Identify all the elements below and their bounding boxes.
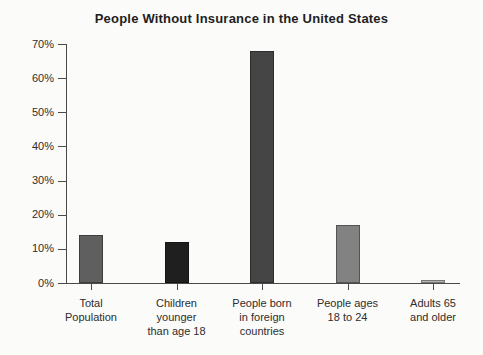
y-tick-mark [58,181,66,182]
x-category-label-line: Children [129,296,225,310]
y-tick-label: 70% [4,38,54,50]
y-axis-line [66,44,67,283]
y-tick-mark [58,146,66,147]
x-category-label: Adults 65and older [385,296,481,324]
x-category-label-line: in foreign [214,310,310,324]
y-tick-mark [58,283,66,284]
x-category-label-line: younger [129,310,225,324]
y-tick-label: 0% [4,277,54,289]
x-category-label: TotalPopulation [43,296,139,324]
x-category-label-line: 18 to 24 [300,310,396,324]
y-tick-label: 50% [4,106,54,118]
x-tick-mark [433,284,434,290]
y-tick-label: 40% [4,140,54,152]
y-tick-mark [58,249,66,250]
bar-people-ages-18-to-24 [336,225,360,283]
x-tick-mark [348,284,349,290]
bar-children-younger-than-age-18 [165,242,189,283]
x-axis-line [66,283,460,284]
x-tick-mark [177,284,178,290]
y-tick-label: 20% [4,208,54,220]
x-category-label: People ages18 to 24 [300,296,396,324]
x-category-label-line: People born [214,296,310,310]
y-tick-mark [58,78,66,79]
x-category-label-line: than age 18 [129,324,225,338]
x-tick-mark [91,284,92,290]
x-tick-mark [262,284,263,290]
y-tick-label: 60% [4,72,54,84]
insurance-bar-chart: People Without Insurance in the United S… [0,0,483,355]
x-category-label-line: People ages [300,296,396,310]
y-tick-mark [58,44,66,45]
x-category-label-line: Total [43,296,139,310]
y-tick-label: 30% [4,174,54,186]
x-category-label-line: Adults 65 [385,296,481,310]
x-category-label: Childrenyoungerthan age 18 [129,296,225,338]
bar-adults-65-and-older [421,280,445,283]
chart-title: People Without Insurance in the United S… [0,11,483,26]
x-category-label-line: countries [214,324,310,338]
y-tick-mark [58,215,66,216]
bar-total-population [79,235,103,283]
x-category-label: People bornin foreigncountries [214,296,310,338]
y-tick-mark [58,112,66,113]
bar-people-born-in-foreign-countries [250,51,274,283]
x-category-label-line: and older [385,310,481,324]
y-tick-label: 10% [4,242,54,254]
x-category-label-line: Population [43,310,139,324]
